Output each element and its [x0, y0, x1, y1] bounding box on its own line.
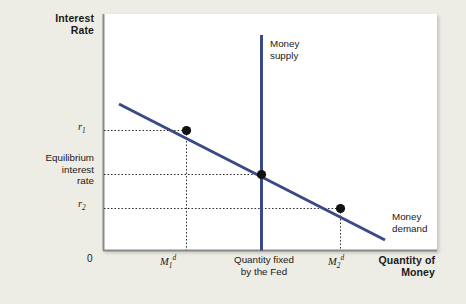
m2-base: M [328, 256, 337, 267]
money-demand-label: Money demand [392, 211, 427, 234]
r2-subscript: 2 [82, 203, 86, 212]
y-axis-title: Interest Rate [8, 12, 94, 37]
r1-subscript: 1 [82, 126, 86, 135]
m2-superscript: d [340, 253, 344, 262]
m1-superscript: d [172, 253, 176, 262]
point-r2-m2 [336, 204, 345, 213]
y-tick-label-r1: r1 [78, 121, 86, 136]
point-r1-m1 [182, 126, 191, 135]
point-equilibrium [257, 170, 266, 179]
money-supply-label: Money supply [270, 38, 299, 61]
money-market-diagram: Interest Rate Quantity of Money 0 r1 Equ… [0, 0, 466, 304]
equilibrium-rate-label: Equilibrium interest rate [10, 152, 94, 187]
x-tick-label-m1: M1d [160, 254, 176, 270]
x-axis-title: Quantity of Money [355, 254, 435, 279]
x-tick-label-m2: M2d [328, 254, 344, 270]
m1-base: M [160, 256, 169, 267]
money-demand-curve [119, 104, 385, 240]
y-tick-label-r2: r2 [78, 198, 86, 213]
origin-label: 0 [87, 253, 93, 265]
quantity-fixed-note: Quantity fixed by the Fed [208, 254, 320, 277]
